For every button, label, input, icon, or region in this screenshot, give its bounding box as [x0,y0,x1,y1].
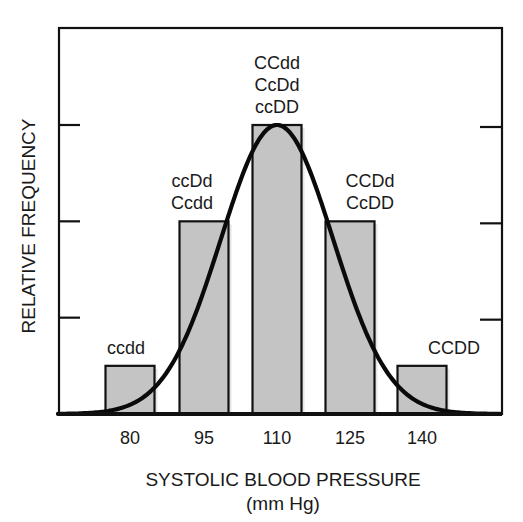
bar-chart: ccddccDdCcddCCddCcDdccDDCCDdCcDDCCDD 809… [0,0,523,522]
x-tick-label: 80 [120,428,140,448]
bar-95 [180,221,229,414]
genotype-label: ccdd [107,338,145,358]
x-tick-label: 140 [407,428,437,448]
x-tick-label: 110 [263,428,292,448]
y-axis-label: RELATIVE FREQUENCY [18,118,39,333]
x-tick-labels: 8095110125140 [120,428,437,448]
x-axis-label: SYSTOLIC BLOOD PRESSURE [145,469,420,490]
genotype-label: CcDD [346,193,394,213]
chart-figure: ccddccDdCcddCCddCcDdccDDCCDdCcDDCCDD 809… [0,0,523,522]
genotype-label: CCDd [345,171,394,191]
bars [106,125,450,414]
bar-125 [326,221,375,414]
genotype-label: CcDd [254,75,299,95]
bar-110 [253,125,302,414]
genotype-label: CCdd [254,53,300,73]
x-tick-label: 95 [194,428,214,448]
genotype-label: ccDD [255,97,299,117]
x-axis-unit: (mm Hg) [246,493,320,514]
x-tick-label: 125 [335,428,365,448]
genotype-label: CCDD [428,338,480,358]
genotype-label: ccDd [171,171,212,191]
genotype-label: Ccdd [171,193,213,213]
